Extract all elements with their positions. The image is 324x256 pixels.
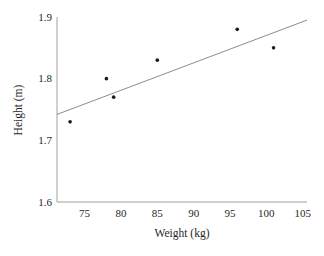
- y-tick-label: 1.8: [38, 72, 52, 84]
- x-axis-title: Weight (kg): [122, 226, 242, 240]
- x-tick-label: 95: [224, 207, 236, 219]
- y-tick-label: 1.6: [38, 196, 52, 208]
- data-point: [155, 58, 159, 62]
- x-tick-label: 80: [115, 207, 127, 219]
- data-point: [68, 120, 72, 124]
- y-tick-label: 1.9: [38, 11, 52, 23]
- x-tick-label: 85: [152, 207, 164, 219]
- chart-plot-area: 1.61.71.81.97580859095100105: [0, 0, 324, 256]
- y-tick-label: 1.7: [38, 134, 52, 146]
- data-point: [235, 28, 239, 32]
- scatter-chart: 1.61.71.81.97580859095100105 Weight (kg)…: [0, 0, 324, 256]
- trend-line: [57, 20, 307, 114]
- x-tick-label: 75: [79, 207, 91, 219]
- data-point: [272, 46, 276, 50]
- x-tick-label: 100: [258, 207, 275, 219]
- data-point: [105, 77, 109, 81]
- x-tick-label: 90: [188, 207, 200, 219]
- y-axis-title: Height (m): [11, 18, 25, 203]
- x-tick-label: 105: [294, 207, 311, 219]
- data-point: [112, 95, 116, 99]
